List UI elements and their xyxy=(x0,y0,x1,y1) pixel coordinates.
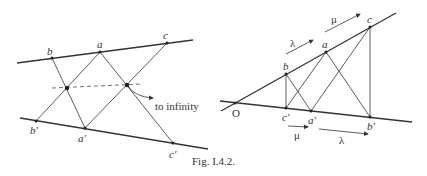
label-c: c xyxy=(163,29,168,41)
label-b: b xyxy=(283,60,289,72)
lambda-bottom: λ xyxy=(339,134,345,146)
bottom-line xyxy=(20,118,208,149)
label-b-prime: b′ xyxy=(367,120,376,132)
label-c: c xyxy=(367,13,372,25)
mu-top: μ xyxy=(331,13,337,25)
label-a-prime: a′ xyxy=(308,114,317,126)
label-b: b xyxy=(47,45,53,57)
right-diagram xyxy=(220,13,412,134)
arrow-mu-bottom xyxy=(288,126,308,127)
figure-caption: Fig. I.4.2. xyxy=(0,155,427,167)
label-a: a xyxy=(97,38,103,50)
label-b-prime: b′ xyxy=(30,124,39,136)
label-O: O xyxy=(232,107,240,119)
label-c-prime: c′ xyxy=(282,111,290,123)
mu-bottom: μ xyxy=(294,129,300,141)
to-infinity-label: to infinity xyxy=(155,100,199,112)
lambda-top: λ xyxy=(290,37,296,49)
label-a-prime: a′ xyxy=(78,132,87,144)
label-a: a xyxy=(322,38,328,50)
left-diagram xyxy=(17,40,208,149)
figure-canvas: b a c b′ a′ c′ to infinity O b a c c′ a′… xyxy=(0,0,427,176)
